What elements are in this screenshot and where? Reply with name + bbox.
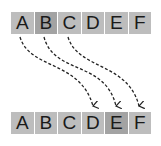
- arrow-b-to-e: [44, 37, 116, 106]
- bottom-cell-c: C: [58, 112, 81, 134]
- bottom-row: A B C D E F: [11, 112, 151, 134]
- arrow-a-to-d: [20, 37, 93, 106]
- bottom-cell-e: E: [105, 112, 128, 134]
- bottom-cell-f: F: [129, 112, 152, 134]
- arrow-c-to-f: [68, 37, 139, 106]
- bottom-cell-b: B: [35, 112, 58, 134]
- bottom-cell-a: A: [11, 112, 34, 134]
- bottom-cell-d: D: [82, 112, 105, 134]
